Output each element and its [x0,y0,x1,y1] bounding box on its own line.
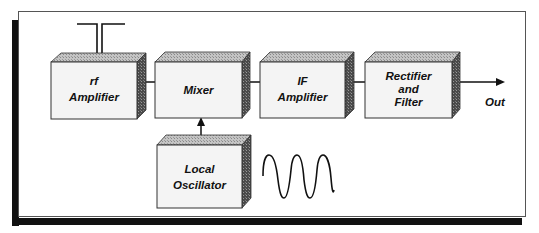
rectifier-filter-label-line2: and [365,83,452,96]
mixer-label-line1: Mixer [155,84,242,97]
if-amplifier-label-line1: IF [260,75,345,88]
sine-wave-icon [263,155,334,198]
local-oscillator-label: Local Oscillator [157,163,242,192]
rectifier-filter-label-line3: Filter [365,96,452,109]
local-oscillator-label-line1: Local [157,163,242,176]
rf-amplifier-label: rf Amplifier [51,75,137,104]
rectifier-filter-label-line1: Rectifier [365,70,452,83]
diagram-graphics [0,0,539,233]
output-arrowhead-icon [496,78,505,86]
rectifier-filter-label: Rectifier and Filter [365,70,452,109]
if-amplifier-label: IF Amplifier [260,75,345,104]
diagram-canvas: rf Amplifier Mixer IF Amplifier Rectifie… [0,0,539,233]
output-label: Out [478,96,512,109]
if-amplifier-label-line2: Amplifier [260,91,345,104]
rf-amplifier-label-line1: rf [51,75,137,88]
mixer-label: Mixer [155,84,242,97]
rf-amplifier-label-line2: Amplifier [51,91,137,104]
local-oscillator-label-line2: Oscillator [157,179,242,192]
